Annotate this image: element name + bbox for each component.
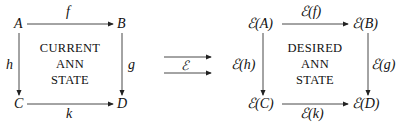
node-A: A bbox=[14, 17, 23, 31]
arrow-label-Ek: ℰ(k) bbox=[300, 107, 324, 121]
node-EC: ℰ(C) bbox=[247, 97, 274, 111]
node-ED: ℰ(D) bbox=[352, 97, 379, 111]
node-D: D bbox=[117, 97, 127, 111]
arrow-label-Ef: ℰ(f) bbox=[300, 5, 321, 19]
node-EA: ℰ(A) bbox=[247, 17, 273, 31]
arrow-label-f: f bbox=[66, 5, 70, 19]
desired-state-text: DESIRED ANN STATE bbox=[275, 40, 355, 88]
functor-label: ℰ bbox=[181, 59, 189, 73]
arrow-label-Eg: ℰ(g) bbox=[371, 58, 395, 72]
node-EB: ℰ(B) bbox=[352, 17, 378, 31]
arrow-label-Eh: ℰ(h) bbox=[231, 58, 255, 72]
node-C: C bbox=[14, 97, 23, 111]
node-B: B bbox=[117, 17, 126, 31]
arrow-label-g: g bbox=[128, 58, 135, 72]
arrow-label-k: k bbox=[66, 107, 72, 121]
arrow-label-h: h bbox=[6, 58, 13, 72]
current-state-text: CURRENT ANN STATE bbox=[30, 40, 110, 88]
